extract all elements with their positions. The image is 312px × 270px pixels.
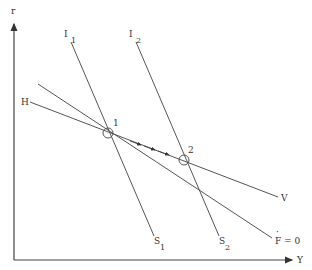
v-label: V	[280, 193, 288, 203]
i1-subscript: 1	[71, 36, 76, 45]
i2-subscript: 2	[136, 36, 141, 45]
i1-label: I	[64, 29, 68, 39]
s1-subscript: 1	[160, 243, 165, 252]
point-2-label: 2	[188, 145, 194, 155]
y-axis-label: r	[11, 6, 16, 16]
curve-i1-s1	[71, 42, 154, 236]
curve-i2-s2	[136, 42, 219, 236]
i2-label: I	[129, 29, 133, 39]
s2-subscript: 2	[225, 243, 230, 252]
point-1-label: 1	[113, 118, 119, 128]
x-axis-label: Y	[296, 255, 304, 265]
h-label: H	[21, 97, 29, 107]
is-lm-diagram: r Y I 1 S 1 I 2 S 2 H V · F = 0 1 2	[0, 0, 312, 270]
curve-f-dot-zero	[38, 84, 272, 238]
f-zero-label: F = 0	[275, 236, 301, 246]
